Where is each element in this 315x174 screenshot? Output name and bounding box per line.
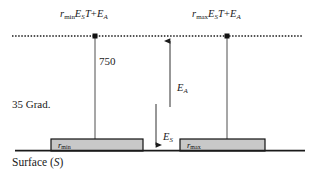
surface-caption-suffix: )	[60, 156, 64, 168]
diagram-figure: rminEST+EA rmaxEST+EA 750 35 Grad. EA ES…	[0, 0, 315, 174]
surface-caption-label: Surface (S)	[12, 157, 63, 169]
energy-a-subscript: A	[183, 87, 187, 95]
left-drop-node-marker	[93, 34, 98, 39]
surface-caption-prefix: Surface (	[12, 156, 54, 168]
diagram-canvas	[0, 0, 315, 174]
angle-note-label: 35 Grad.	[12, 99, 51, 110]
block-r-max-subscript: max	[190, 144, 200, 150]
right-drop-node-marker	[225, 34, 230, 39]
block-r-min-subscript: min	[61, 144, 70, 150]
height-value-label: 750	[99, 56, 116, 67]
block-r-max-label: rmax	[187, 141, 201, 150]
energy-s-subscript: S	[169, 136, 173, 144]
energy-a-label: EA	[177, 83, 188, 95]
left-energy-formula-label: rminEST+EA	[60, 9, 108, 21]
right-energy-formula-label: rmaxEST+EA	[192, 9, 241, 21]
left-formula-EA-subscript: A	[103, 13, 107, 21]
right-formula-EA-subscript: A	[237, 13, 241, 21]
block-r-min-label: rmin	[58, 141, 71, 150]
right-formula-r-subscript: max	[196, 13, 208, 21]
left-formula-r-subscript: min	[64, 13, 75, 21]
energy-s-label: ES	[163, 132, 173, 144]
